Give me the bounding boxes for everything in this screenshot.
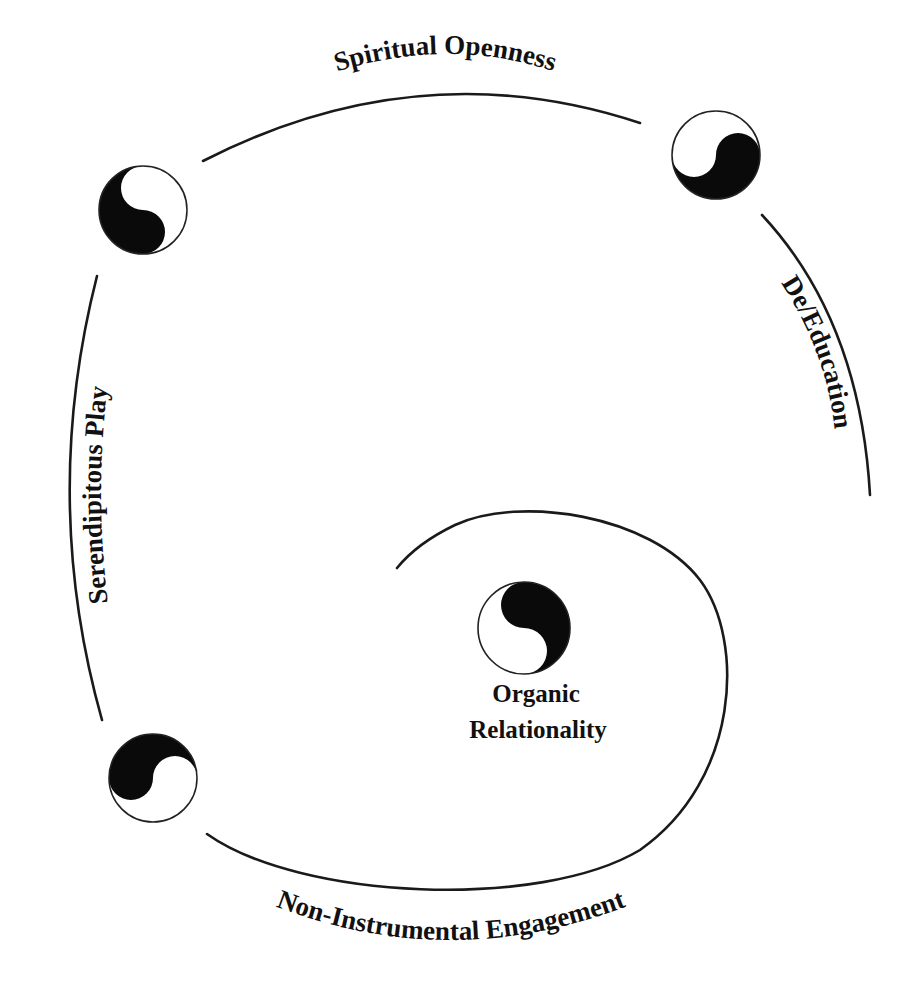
label-organic: Organic [492, 680, 580, 707]
diagram-canvas: Spiritual Openness De/Education Serendip… [0, 0, 906, 987]
yin-yang-center-icon [478, 582, 570, 674]
label-non-instrumental-engagement: Non-Instrumental Engagement [273, 884, 628, 946]
spiral-arc [207, 511, 727, 889]
yin-yang-top-right-icon [672, 111, 760, 199]
yin-yang-bottom-left-icon [109, 734, 197, 822]
yin-yang-top-left-icon [99, 166, 187, 254]
label-spiritual-openness: Spiritual Openness [330, 30, 560, 77]
label-serendipitous-play: Serendipitous Play [77, 384, 114, 606]
label-relationality: Relationality [469, 716, 607, 743]
arc-top [203, 94, 640, 161]
